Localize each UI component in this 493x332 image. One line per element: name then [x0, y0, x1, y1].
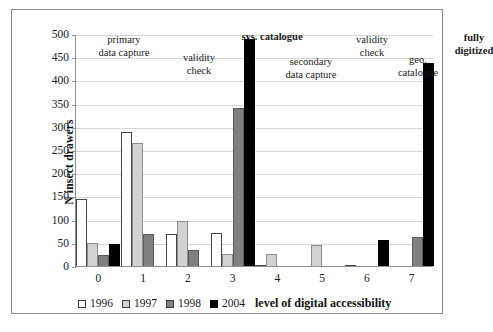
y-axis-tick	[72, 267, 76, 268]
bar-1997-4	[266, 254, 277, 266]
bar-1996-6	[345, 265, 356, 267]
y-axis-tick-label: 0	[63, 261, 69, 273]
y-axis-tick-label: 300	[52, 122, 69, 134]
annotation-line: check	[183, 64, 215, 77]
annotation-line: secondary	[285, 55, 336, 68]
plot-area: 05010015020025030035040045050001234567pr…	[75, 35, 433, 267]
bar-1997-1	[132, 143, 143, 266]
bar-1997-5	[311, 245, 322, 266]
x-axis-tick-label-7: 7	[409, 273, 415, 285]
bar-1996-0	[76, 199, 87, 266]
y-axis-tick-label: 200	[52, 168, 69, 180]
figure-frame: N insect drawers 05010015020025030035040…	[11, 9, 443, 314]
bar-1997-3	[222, 254, 233, 266]
chart-annotation-5: geo.catalogue	[398, 53, 438, 79]
x-axis-tick-label-6: 6	[364, 273, 370, 285]
bar-1998-7	[412, 237, 423, 266]
bar-1996-2	[166, 234, 177, 266]
bar-2004-3	[244, 39, 255, 266]
legend-item-1996: 1996	[78, 298, 113, 310]
bar-group-3: 3	[210, 35, 255, 266]
annotation-line: validity	[356, 33, 388, 46]
y-axis-tick-label: 150	[52, 192, 69, 204]
legend-item-1998: 1998	[166, 298, 201, 310]
annotation-line: data capture	[285, 68, 336, 81]
bar-1997-2	[177, 221, 188, 266]
annotation-line: catalogue	[398, 66, 438, 79]
annotation-line: primary	[98, 33, 149, 46]
annotation-line: fully	[455, 31, 493, 44]
chart-annotation-4: validitycheck	[356, 33, 388, 59]
legend-label-2004: 2004	[222, 298, 245, 310]
annotation-line: check	[356, 46, 388, 59]
x-axis-tick-label-4: 4	[275, 273, 281, 285]
chart-annotation-1: validitycheck	[183, 51, 215, 77]
bar-1998-1	[143, 234, 154, 266]
x-axis-title: level of digital accessibility	[255, 297, 391, 309]
y-axis-tick-label: 50	[58, 238, 70, 250]
annotation-line: geo.	[398, 53, 438, 66]
bar-1998-2	[188, 250, 199, 266]
chart-annotation-2: sys. catalogue	[241, 30, 302, 43]
bar-1996-3	[211, 233, 222, 266]
y-axis-tick-label: 250	[52, 145, 69, 157]
legend-item-1997: 1997	[122, 298, 157, 310]
chart-annotation-0: primarydata capture	[98, 33, 149, 59]
legend-swatch-icon-1998	[166, 300, 174, 308]
chart-annotation-6: fullydigitized	[455, 31, 493, 57]
bar-1998-0	[98, 255, 109, 266]
x-axis-tick-label-2: 2	[185, 273, 191, 285]
bar-1998-3	[233, 108, 244, 266]
legend-label-1996: 1996	[90, 298, 113, 310]
bar-1996-1	[121, 132, 132, 266]
bar-1997-0	[87, 243, 98, 266]
legend-label-1997: 1997	[134, 298, 157, 310]
bar-1996-4	[255, 265, 266, 267]
bar-group-1: 1	[121, 35, 166, 266]
bar-2004-6	[378, 240, 389, 266]
annotation-line: data capture	[98, 46, 149, 59]
annotation-line: validity	[183, 51, 215, 64]
y-axis-tick-label: 400	[52, 76, 69, 88]
x-axis-tick-label-1: 1	[140, 273, 146, 285]
y-axis-tick-label: 500	[52, 29, 69, 41]
y-axis-tick-label: 350	[52, 99, 69, 111]
chart-legend: 1996 1997 1998 2004	[78, 298, 245, 310]
legend-swatch-icon-1997	[122, 300, 130, 308]
bar-group-6: 6	[345, 35, 390, 266]
bar-2004-0	[109, 244, 120, 266]
annotation-line: sys. catalogue	[241, 30, 302, 43]
x-axis-tick-label-0: 0	[96, 273, 102, 285]
y-axis-tick-label: 100	[52, 215, 69, 227]
legend-label-1998: 1998	[178, 298, 201, 310]
legend-item-2004: 2004	[210, 298, 245, 310]
y-axis-tick-label: 450	[52, 52, 69, 64]
bar-group-0: 0	[76, 35, 121, 266]
chart-annotation-3: secondarydata capture	[285, 55, 336, 81]
legend-swatch-icon-1996	[78, 300, 86, 308]
x-axis-tick-label-5: 5	[319, 273, 325, 285]
x-axis-tick-label-3: 3	[230, 273, 236, 285]
annotation-line: digitized	[455, 44, 493, 57]
legend-swatch-icon-2004	[210, 300, 218, 308]
bar-2004-7	[423, 63, 434, 266]
